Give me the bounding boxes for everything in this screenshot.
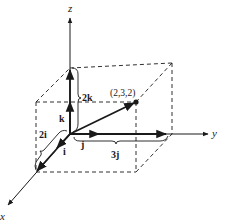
vector-diagram: z y x 2k k 2i i j 3j (2,3,2) — [0, 0, 227, 222]
label-2i: 2i — [39, 129, 47, 140]
label-k: k — [59, 113, 65, 124]
point-marker — [133, 99, 138, 104]
label-j: j — [80, 139, 84, 150]
point-label: (2,3,2) — [110, 88, 135, 99]
y-axis-label: y — [211, 127, 217, 139]
label-2k: 2k — [82, 92, 93, 103]
position-vector — [70, 103, 134, 134]
axes — [8, 18, 208, 205]
brace-2k — [72, 68, 81, 132]
brace-3j — [74, 136, 168, 144]
z-axis-label: z — [67, 2, 73, 14]
diagram-canvas: z y x 2k k 2i i j 3j (2,3,2) — [0, 0, 227, 222]
label-3j: 3j — [111, 149, 119, 160]
component-vectors — [37, 70, 166, 171]
label-i: i — [63, 146, 66, 157]
x-axis-label: x — [0, 210, 5, 222]
